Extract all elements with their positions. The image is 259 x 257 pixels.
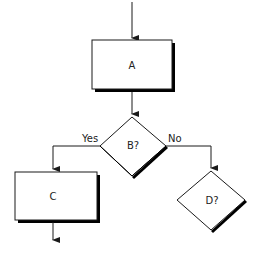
node-a-label: A bbox=[129, 60, 136, 71]
edge-label-no: No bbox=[168, 133, 182, 144]
flowchart-canvas: A B? Yes No C D? bbox=[0, 0, 259, 257]
node-d[interactable]: D? bbox=[177, 171, 246, 232]
node-c[interactable]: C bbox=[15, 172, 100, 223]
edge-label-yes: Yes bbox=[81, 133, 98, 144]
node-c-label: C bbox=[50, 191, 57, 202]
node-a[interactable]: A bbox=[92, 40, 175, 92]
edge-b-to-d: No bbox=[166, 133, 211, 168]
node-d-label: D? bbox=[205, 195, 218, 206]
edge-b-to-c: Yes bbox=[53, 133, 100, 169]
node-b-label: B? bbox=[127, 140, 139, 151]
node-b[interactable]: B? bbox=[100, 117, 167, 178]
